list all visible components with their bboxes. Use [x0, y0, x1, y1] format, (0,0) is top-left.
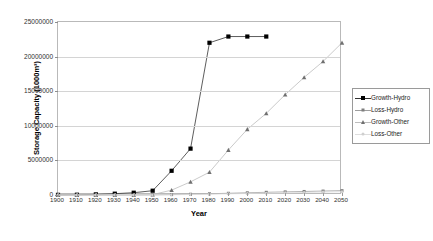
legend-label: Growth-Hydro [371, 95, 410, 101]
legend-label: Loss-Hydro [371, 107, 403, 113]
y-axis-tick-label: 5000000 [28, 156, 53, 163]
legend-label: Growth-Other [371, 119, 409, 125]
x-axis-tick-label: 1910 [69, 196, 83, 203]
legend-symbol-filled-square-icon [355, 93, 371, 103]
gridline [58, 126, 340, 127]
chart-legend: Growth-HydroLoss-HydroGrowth-OtherLoss-O… [352, 88, 430, 144]
legend-marker-icon [361, 96, 365, 100]
x-axis-tick-label: 2030 [296, 196, 310, 203]
x-axis-tick-label: 2040 [315, 196, 329, 203]
gridline [58, 57, 340, 58]
storage-capacity-chart: Storage Capacity (1000m³) 05000000100000… [0, 0, 433, 241]
data-point-marker [340, 41, 344, 45]
data-point-marker [226, 34, 230, 38]
x-axis-tick-label: 2020 [277, 196, 291, 203]
x-axis-tick-label: 1970 [183, 196, 197, 203]
data-point-marker [207, 41, 211, 45]
x-axis-tick-labels: 1900191019201930194019501960197019801990… [57, 196, 341, 210]
legend-item-loss-other[interactable]: Loss-Other [355, 128, 426, 140]
series-growth-other [56, 41, 344, 197]
y-axis-tick-mark [55, 91, 58, 92]
data-point-marker [169, 188, 173, 192]
x-axis-tick-label: 1930 [107, 196, 121, 203]
legend-marker-icon [361, 120, 365, 124]
data-point-marker [245, 34, 249, 38]
x-axis-tick-label: 2050 [334, 196, 348, 203]
y-axis-tick-mark [55, 160, 58, 161]
legend-item-growth-other[interactable]: Growth-Other [355, 116, 426, 128]
series-growth-hydro [56, 34, 268, 197]
legend-symbol-dot-icon [355, 129, 371, 139]
y-axis-tick-mark [55, 57, 58, 58]
gridline [58, 91, 340, 92]
x-axis-tick-label: 1960 [164, 196, 178, 203]
legend-marker-icon [362, 133, 365, 136]
x-axis-tick-label: 1900 [50, 196, 64, 203]
y-axis-tick-mark [55, 126, 58, 127]
y-axis-tick-mark [55, 22, 58, 23]
y-axis-tick-label: 15000000 [24, 87, 53, 94]
y-axis-tick-labels: 0500000010000000150000002000000025000000 [0, 0, 57, 241]
data-point-marker [170, 169, 174, 173]
x-axis-tick-label: 1950 [145, 196, 159, 203]
legend-item-loss-hydro[interactable]: Loss-Hydro [355, 104, 426, 116]
y-axis-tick-label: 25000000 [24, 18, 53, 25]
series-layer [58, 22, 342, 195]
series-line [58, 43, 342, 195]
legend-symbol-triangle-icon [355, 117, 371, 127]
x-axis-tick-label: 2000 [239, 196, 253, 203]
chart-title [0, 0, 433, 3]
series-line [58, 37, 266, 195]
x-axis-tick-label: 1920 [88, 196, 102, 203]
x-axis-tick-label: 1940 [126, 196, 140, 203]
y-axis-tick-label: 20000000 [24, 52, 53, 59]
plot-area [57, 21, 341, 194]
x-axis-tick-label: 1980 [202, 196, 216, 203]
legend-symbol-small-square-icon [355, 105, 371, 115]
data-point-marker [188, 147, 192, 151]
legend-item-growth-hydro[interactable]: Growth-Hydro [355, 92, 426, 104]
legend-label: Loss-Other [371, 131, 402, 137]
x-axis-tick-label: 2010 [258, 196, 272, 203]
x-axis-tick-label: 1990 [221, 196, 235, 203]
gridline [58, 160, 340, 161]
data-point-marker [188, 180, 192, 184]
legend-marker-icon [362, 109, 365, 112]
data-point-marker [264, 34, 268, 38]
x-axis-title: Year [57, 209, 341, 218]
y-axis-tick-label: 10000000 [24, 121, 53, 128]
